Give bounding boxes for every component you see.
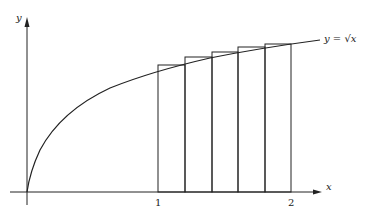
rectangle-2 bbox=[185, 57, 212, 192]
sqrt-curve bbox=[27, 40, 320, 192]
tick-label-2: 2 bbox=[288, 198, 294, 208]
y-axis bbox=[25, 17, 30, 205]
y-axis-label: y bbox=[16, 13, 22, 23]
x-axis-label: x bbox=[326, 182, 332, 192]
curve-label: y = √x bbox=[324, 34, 356, 44]
y-axis-arrow-icon bbox=[25, 17, 30, 27]
x-axis-arrow-icon bbox=[313, 190, 322, 195]
rectangle-1 bbox=[158, 65, 185, 192]
rectangle-4 bbox=[238, 47, 265, 192]
rectangle-3 bbox=[212, 52, 238, 192]
tick-label-1: 1 bbox=[155, 198, 161, 208]
rectangle-5 bbox=[265, 44, 291, 192]
diagram-canvas bbox=[0, 0, 368, 222]
